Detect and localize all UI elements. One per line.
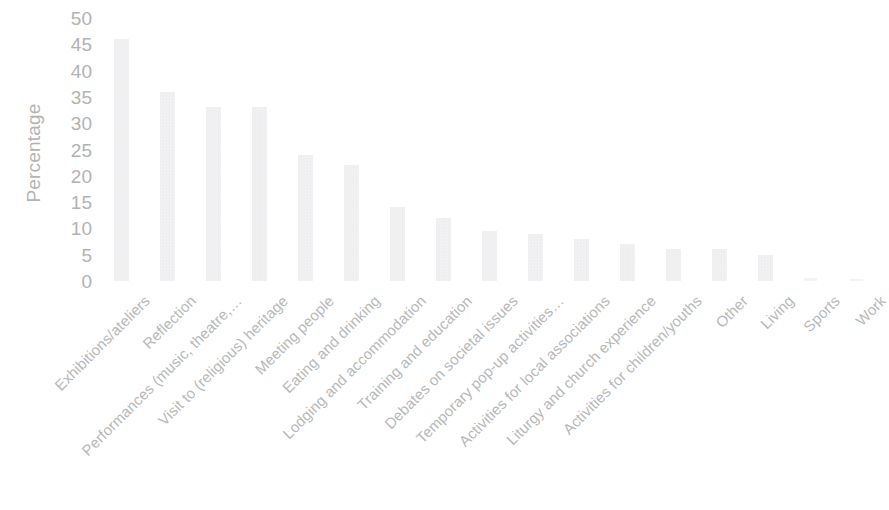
bar-slot (198, 0, 244, 282)
bar-slot (428, 0, 474, 282)
y-tick-label: 35 (52, 87, 92, 106)
y-tick-label: 50 (52, 9, 92, 28)
bar (206, 107, 221, 281)
plot-area (106, 0, 836, 282)
y-tick-label: 40 (52, 61, 92, 80)
bar-slot (290, 0, 336, 282)
y-tick-label: 30 (52, 114, 92, 133)
bar (436, 218, 451, 281)
bar (114, 39, 129, 281)
bar (482, 231, 497, 281)
bar-slot (566, 0, 612, 282)
y-axis-tick-labels: 50454035302520151050 (52, 0, 92, 300)
bar-slot (382, 0, 428, 282)
y-tick-label: 15 (52, 193, 92, 212)
y-axis-title: Percentage (23, 73, 45, 233)
bar (620, 244, 635, 281)
bar-slot (842, 0, 888, 282)
bar (344, 165, 359, 281)
y-tick-label: 25 (52, 140, 92, 159)
bar-slot (658, 0, 704, 282)
bar-slot (750, 0, 796, 282)
y-tick-label: 0 (52, 272, 92, 291)
bar-slot (336, 0, 382, 282)
x-tick-label: Work (852, 292, 889, 329)
bar-slot (474, 0, 520, 282)
y-tick-label: 45 (52, 35, 92, 54)
bar-slot (520, 0, 566, 282)
bar (666, 249, 681, 281)
x-tick-label: Living (757, 292, 797, 332)
bar (252, 107, 267, 281)
x-axis-tick-labels: Exhibitions/ateliersReflectionPerformanc… (106, 286, 836, 510)
bar (160, 92, 175, 281)
bar (528, 234, 543, 281)
y-tick-label: 20 (52, 166, 92, 185)
bar-slot (796, 0, 842, 282)
bar (298, 155, 313, 281)
y-tick-label: 5 (52, 245, 92, 264)
bar-slot (612, 0, 658, 282)
bar (390, 207, 405, 281)
x-tick-label: Sports (800, 292, 843, 335)
y-tick-label: 10 (52, 219, 92, 238)
bar (850, 279, 863, 281)
bar (712, 249, 727, 281)
bar-slot (704, 0, 750, 282)
bar-slot (152, 0, 198, 282)
bar (574, 239, 589, 281)
x-tick-label: Exhibitions/ateliers (51, 292, 153, 394)
bar-slot (244, 0, 290, 282)
bar (804, 278, 817, 281)
x-tick-label: Other (712, 292, 751, 331)
bar-slot (106, 0, 152, 282)
bar (758, 255, 773, 281)
